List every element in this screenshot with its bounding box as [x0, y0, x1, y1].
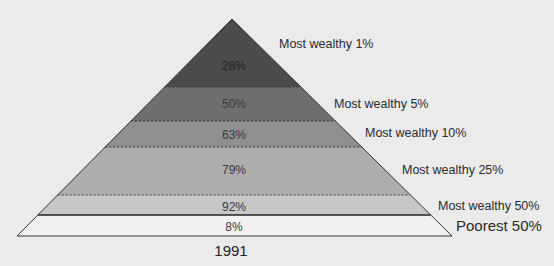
group-label-tier-4: Most wealthy 50% [438, 200, 539, 213]
share-value-tier-4: 92% [222, 201, 246, 213]
group-label-tier-2: Most wealthy 10% [365, 127, 466, 140]
group-label-tier-5: Poorest 50% [456, 218, 542, 233]
tier-most-wealthy-1 [165, 19, 301, 87]
group-label-tier-0: Most wealthy 1% [279, 38, 373, 51]
group-label-tier-1: Most wealthy 5% [334, 98, 428, 111]
share-value-tier-2: 63% [222, 129, 246, 141]
share-value-tier-1: 50% [222, 98, 246, 110]
share-value-tier-0: 28% [222, 60, 246, 72]
share-value-tier-3: 79% [222, 164, 246, 176]
group-label-tier-3: Most wealthy 25% [402, 164, 503, 177]
year-caption: 1991 [214, 243, 247, 258]
share-value-tier-5: 8% [225, 221, 242, 233]
